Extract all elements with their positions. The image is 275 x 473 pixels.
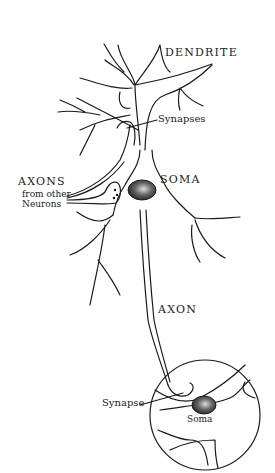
inset-soma-nucleus [192, 396, 216, 414]
label-axons: AXONS [18, 176, 66, 187]
soma-nucleus [128, 180, 156, 200]
label-dendrite: DENDRITE [165, 47, 238, 58]
label-axons-from-other: from other [22, 190, 71, 199]
label-synapse: Synapse [102, 398, 144, 408]
label-synapses: Synapses [158, 114, 206, 124]
label-soma: SOMA [160, 174, 201, 185]
label-axon: AXON [158, 304, 197, 315]
label-soma-inset: Soma [187, 415, 212, 424]
label-axons-neurons: Neurons [22, 200, 61, 209]
